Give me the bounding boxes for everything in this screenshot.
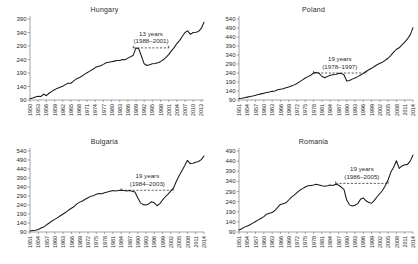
x-tick-label-bulgaria-5: 1966 <box>69 236 75 248</box>
x-tick-label-romania-0: 1951 <box>236 236 242 248</box>
y-tick-label-romania-3: 240 <box>225 199 236 205</box>
x-tick-label-hungary-12: 1986 <box>125 104 131 116</box>
x-tick-label-romania-1: 1954 <box>244 236 250 248</box>
x-tick-label-hungary-21: 2013 <box>198 104 204 116</box>
y-tick-label-hungary-3: 240 <box>16 57 27 63</box>
y-tick-label-bulgaria-9: 540 <box>16 148 27 154</box>
y-tick-label-hungary-5: 340 <box>16 30 27 36</box>
annotation-period-romania: (1986–2005) <box>344 173 379 180</box>
y-tick-label-bulgaria-7: 440 <box>16 166 27 172</box>
annotation-period-hungary: (1988–2001) <box>133 37 168 44</box>
y-tick-label-romania-4: 290 <box>225 189 236 195</box>
x-tick-label-hungary-7: 1971 <box>84 104 90 116</box>
y-tick-label-bulgaria-2: 190 <box>16 211 27 217</box>
y-tick-label-bulgaria-0: 90 <box>20 229 27 235</box>
x-tick-label-poland-10: 1981 <box>319 104 325 116</box>
x-tick-label-poland-19: 2008 <box>394 104 400 116</box>
x-tick-label-bulgaria-3: 1960 <box>52 236 58 248</box>
x-tick-label-hungary-5: 1965 <box>68 104 74 116</box>
x-tick-label-hungary-15: 1995 <box>149 104 155 116</box>
x-tick-label-romania-10: 1981 <box>319 236 325 248</box>
x-tick-label-romania-5: 1966 <box>278 236 284 248</box>
chart-panel-poland: Poland 901401902402903403904404905401951… <box>209 0 418 132</box>
y-tick-label-romania-5: 340 <box>225 178 236 184</box>
x-tick-label-romania-14: 1993 <box>352 236 358 248</box>
y-tick-label-romania-0: 90 <box>229 229 236 235</box>
x-tick-label-poland-16: 1999 <box>369 104 375 116</box>
y-tick-label-poland-9: 540 <box>225 16 236 22</box>
x-tick-label-poland-15: 1996 <box>360 104 366 116</box>
x-tick-label-poland-11: 1984 <box>327 104 333 116</box>
y-tick-label-bulgaria-8: 490 <box>16 157 27 163</box>
x-tick-label-romania-7: 1972 <box>294 236 300 248</box>
x-tick-label-poland-17: 2002 <box>377 104 383 116</box>
y-tick-label-hungary-0: 90 <box>20 97 27 103</box>
x-tick-label-hungary-10: 1980 <box>109 104 115 116</box>
x-tick-label-hungary-2: 1956 <box>43 104 49 116</box>
x-tick-label-bulgaria-16: 1999 <box>160 236 166 248</box>
chart-panel-romania: Romania 90140190240290340390440490195119… <box>209 132 418 264</box>
x-tick-label-bulgaria-0: 1951 <box>27 236 33 248</box>
y-tick-label-hungary-2: 190 <box>16 70 27 76</box>
y-tick-label-romania-6: 390 <box>225 168 236 174</box>
x-tick-label-romania-8: 1975 <box>302 236 308 248</box>
y-tick-label-hungary-1: 140 <box>16 84 27 90</box>
x-tick-label-bulgaria-20: 2011 <box>193 236 199 248</box>
x-tick-label-bulgaria-6: 1969 <box>77 236 83 248</box>
x-tick-label-hungary-8: 1974 <box>92 104 98 116</box>
x-tick-label-bulgaria-10: 1981 <box>110 236 116 248</box>
x-tick-label-bulgaria-9: 1978 <box>102 236 108 248</box>
x-tick-label-hungary-9: 1977 <box>101 104 107 116</box>
x-tick-label-romania-11: 1984 <box>327 236 333 248</box>
x-tick-label-romania-15: 1996 <box>360 236 366 248</box>
x-tick-label-poland-12: 1987 <box>336 104 342 116</box>
x-tick-label-bulgaria-1: 1954 <box>35 236 41 248</box>
x-tick-label-poland-14: 1993 <box>352 104 358 116</box>
y-tick-label-bulgaria-5: 340 <box>16 184 27 190</box>
x-tick-label-bulgaria-13: 1990 <box>135 236 141 248</box>
annotation-duration-romania: 19 years <box>350 165 374 172</box>
annotation-duration-poland: 19 years <box>328 55 352 62</box>
y-tick-label-bulgaria-4: 290 <box>16 193 27 199</box>
x-tick-label-romania-2: 1957 <box>253 236 259 248</box>
y-tick-label-romania-2: 190 <box>225 209 236 215</box>
x-tick-label-romania-12: 1987 <box>336 236 342 248</box>
x-tick-label-romania-21: 2014 <box>410 236 416 248</box>
x-tick-label-poland-5: 1966 <box>278 104 284 116</box>
data-series-hungary <box>30 22 204 98</box>
chart-svg-poland: 9014019024029034039044049054019511954195… <box>209 0 418 132</box>
axis-lines-poland <box>239 16 413 100</box>
x-tick-label-bulgaria-19: 2008 <box>185 236 191 248</box>
y-tick-label-poland-3: 240 <box>225 70 236 76</box>
x-tick-label-bulgaria-4: 1963 <box>60 236 66 248</box>
x-tick-label-romania-13: 1990 <box>344 236 350 248</box>
x-tick-label-hungary-18: 2004 <box>174 104 180 116</box>
x-tick-label-hungary-4: 1962 <box>60 104 66 116</box>
x-tick-label-bulgaria-14: 1993 <box>143 236 149 248</box>
x-tick-label-poland-7: 1972 <box>294 104 300 116</box>
x-tick-label-bulgaria-15: 1996 <box>151 236 157 248</box>
axis-lines-romania <box>239 148 413 232</box>
x-tick-label-poland-4: 1963 <box>269 104 275 116</box>
chart-svg-bulgaria: 9014019024029034039044049054019511954195… <box>0 132 209 264</box>
x-tick-label-hungary-17: 2001 <box>166 104 172 116</box>
x-tick-label-bulgaria-12: 1987 <box>127 236 133 248</box>
x-tick-label-hungary-20: 2010 <box>190 104 196 116</box>
x-tick-label-bulgaria-17: 2002 <box>168 236 174 248</box>
data-series-bulgaria <box>30 156 204 231</box>
axis-lines-bulgaria <box>30 148 204 232</box>
annotation-duration-bulgaria: 19 years <box>136 172 160 179</box>
x-tick-label-poland-8: 1975 <box>302 104 308 116</box>
x-tick-label-romania-9: 1978 <box>311 236 317 248</box>
x-tick-label-poland-6: 1969 <box>286 104 292 116</box>
x-tick-label-hungary-13: 1989 <box>133 104 139 116</box>
figure-panel-grid: Hungary 90140190240290340390195019531956… <box>0 0 418 264</box>
chart-svg-hungary: 9014019024029034039019501953195619591962… <box>0 0 209 132</box>
y-tick-label-bulgaria-3: 240 <box>16 202 27 208</box>
x-tick-label-poland-20: 2011 <box>402 104 408 116</box>
y-tick-label-poland-2: 190 <box>225 79 236 85</box>
y-tick-label-poland-7: 440 <box>225 34 236 40</box>
x-tick-label-bulgaria-21: 2014 <box>201 236 207 248</box>
x-tick-label-romania-17: 2002 <box>377 236 383 248</box>
y-tick-label-poland-5: 340 <box>225 52 236 58</box>
